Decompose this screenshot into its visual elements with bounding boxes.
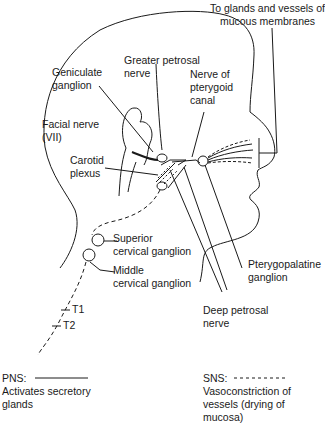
legend-pns-desc: Activates secretory glands (2, 385, 91, 411)
label-deep-petrosal: Deep petrosal nerve (203, 304, 268, 330)
label-pterygoid-canal: Nerve of pterygoid canal (190, 68, 233, 107)
label-t1: T1 (72, 303, 84, 316)
ear (122, 108, 151, 165)
label-geniculate: Geniculate ganglion (52, 66, 102, 92)
label-middle-cervical: Middle cervical ganglion (113, 264, 191, 290)
label-t2: T2 (63, 319, 75, 332)
legend-sns-desc: Vasoconstriction of vessels (drying of m… (203, 385, 291, 424)
label-superior-cervical: Superior cervical ganglion (113, 232, 191, 258)
legend-pns-label: PNS: (2, 372, 27, 385)
label-greater-petrosal: Greater petrosal nerve (124, 54, 200, 80)
label-facial-nerve: Facial nerve (VII) (42, 118, 99, 144)
label-to-glands: To glands and vessels of mucous membrane… (210, 2, 325, 28)
label-pterygopalatine: Pterygopalatine ganglion (248, 258, 321, 284)
label-carotid-plexus: Carotid plexus (70, 154, 104, 180)
legend-sns-label: SNS: (203, 372, 228, 385)
